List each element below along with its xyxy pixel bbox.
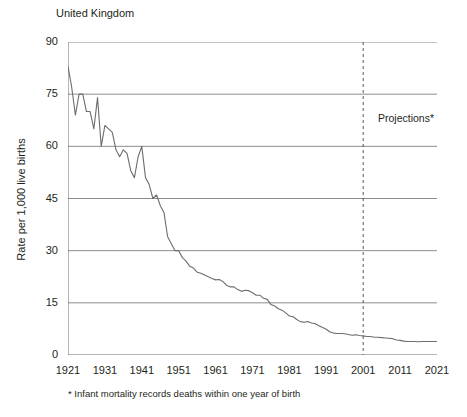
gridlines <box>68 42 437 303</box>
x-tick-label: 1931 <box>85 365 125 376</box>
page-title: United Kingdom <box>56 6 134 20</box>
x-tick-label: 1941 <box>122 365 162 376</box>
y-tick-label: 15 <box>32 297 58 308</box>
x-tick-label: 1951 <box>159 365 199 376</box>
y-tick-label: 75 <box>32 88 58 99</box>
x-tick-label: 2021 <box>417 365 457 376</box>
y-tick-label: 45 <box>32 193 58 204</box>
projections-annotation-label: Projections* <box>378 112 434 125</box>
y-tick-label: 90 <box>32 36 58 47</box>
data-line-infant-mortality <box>68 66 437 341</box>
plot-area <box>68 42 437 355</box>
y-tick-label: 30 <box>32 245 58 256</box>
x-tick-label: 1991 <box>306 365 346 376</box>
y-axis-title: Rate per 1,000 live births <box>15 105 28 295</box>
footnote-text: * Infant mortality records deaths within… <box>68 388 300 400</box>
x-tick-label: 2011 <box>380 365 420 376</box>
y-tick-label: 60 <box>32 140 58 151</box>
x-tick-label: 1981 <box>269 365 309 376</box>
x-tick-label: 1961 <box>196 365 236 376</box>
x-tick-label: 1921 <box>48 365 88 376</box>
x-tick-label: 1971 <box>233 365 273 376</box>
y-tick-label: 0 <box>32 349 58 360</box>
infant-mortality-chart: United Kingdom Rate per 1,000 live birth… <box>0 0 467 417</box>
x-tick-label: 2001 <box>343 365 383 376</box>
